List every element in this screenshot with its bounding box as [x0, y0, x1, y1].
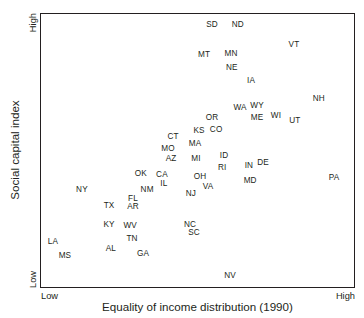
data-point-label: RI [218, 164, 227, 172]
data-point-label: NE [226, 64, 238, 72]
data-point-label: PA [329, 174, 340, 182]
data-point-label: SC [188, 229, 200, 237]
plot-area: SDNDVTMTMNNEIANHWAWYMEWIUTORKSCOCTMAMOAZ… [41, 14, 354, 287]
y-axis-tick-low: Low [28, 271, 38, 288]
plot-frame: SDNDVTMTMNNEIANHWAWYMEWIUTORKSCOCTMAMOAZ… [40, 13, 355, 288]
data-point-label: MA [189, 140, 202, 148]
data-point-label: UT [289, 117, 300, 125]
data-point-label: CO [210, 126, 223, 134]
data-point-label: MT [198, 51, 210, 59]
scatter-plot-figure: Social capital index High Low SDNDVTMTMN… [0, 0, 364, 318]
data-point-label: IA [247, 77, 255, 85]
data-point-label: NH [313, 95, 325, 103]
data-point-label: TX [104, 202, 115, 210]
data-point-label: WA [233, 104, 246, 112]
data-point-label: IN [245, 162, 254, 170]
data-point-label: WI [271, 112, 281, 120]
data-point-label: ND [232, 21, 244, 29]
data-point-label: KY [103, 221, 114, 229]
data-point-label: SD [206, 21, 218, 29]
data-point-label: AZ [166, 155, 177, 163]
data-point-label: MO [161, 145, 175, 153]
data-point-label: MI [191, 155, 200, 163]
data-point-label: KS [194, 127, 205, 135]
data-point-label: VT [289, 41, 300, 49]
data-point-label: GA [137, 250, 149, 258]
data-point-label: MS [59, 252, 72, 260]
data-point-label: NV [224, 272, 236, 280]
data-point-label: ME [251, 114, 264, 122]
data-point-label: DE [257, 159, 269, 167]
y-axis-tick-high: High [28, 13, 38, 32]
data-point-label: OR [206, 114, 219, 122]
data-point-label: AL [106, 245, 116, 253]
data-point-label: MD [244, 177, 257, 185]
data-point-label: WY [250, 102, 264, 110]
data-point-label: NY [76, 186, 88, 194]
data-point-label: CA [156, 171, 168, 179]
data-point-label: MN [224, 50, 237, 58]
data-point-label: TN [126, 235, 137, 243]
data-point-label: OH [194, 173, 207, 181]
x-axis-title: Equality of income distribution (1990) [40, 300, 355, 313]
y-axis-title: Social capital index [8, 100, 21, 199]
data-point-label: NM [141, 186, 154, 194]
data-point-label: ID [220, 152, 229, 160]
data-point-label: VA [203, 183, 214, 191]
data-point-label: NJ [186, 190, 196, 198]
data-point-label: IL [160, 180, 167, 188]
data-point-label: AR [127, 203, 139, 211]
data-point-label: LA [48, 238, 58, 246]
data-point-label: CT [167, 133, 178, 141]
data-point-label: OK [135, 170, 147, 178]
data-point-label: WV [123, 222, 137, 230]
